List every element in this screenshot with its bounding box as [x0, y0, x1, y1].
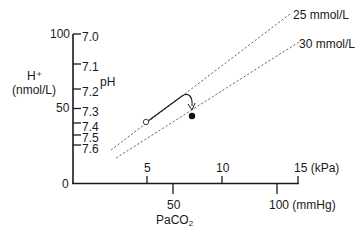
- ph-axis-label: pH: [100, 76, 115, 88]
- filled-circle-point: [189, 113, 195, 119]
- isopleth-25-label: 25 mmol/L: [293, 9, 349, 21]
- y-tick-50: 50: [56, 102, 69, 114]
- isopleth-30: [116, 42, 299, 158]
- open-circle-point: [143, 119, 148, 124]
- mmhg-tick-50: 50: [167, 199, 180, 211]
- isopleth-25: [111, 14, 290, 150]
- y-tick-0: 0: [62, 178, 69, 190]
- mmhg-tick-100: 100 (mmHg): [269, 199, 336, 211]
- x-axis-label-sub: 2: [189, 219, 193, 228]
- x-axis-label: PaCO2: [156, 214, 193, 230]
- kpa-tick-5: 5: [144, 162, 151, 174]
- ph-tick-7-1: 7.1: [82, 61, 99, 73]
- kpa-tick-15: 15 (kPa): [294, 162, 339, 174]
- ph-ticks: [73, 34, 81, 145]
- x-axis-label-text: PaCO: [156, 213, 189, 227]
- ph-tick-7-3: 7.3: [82, 106, 99, 118]
- isopleth-30-label: 30 mmol/L: [299, 38, 355, 50]
- mmhg-ticks: [173, 183, 277, 194]
- h-axis-label-line1: H⁺: [27, 70, 42, 82]
- y-tick-100: 100: [50, 28, 70, 40]
- arrowhead-icon: [188, 103, 195, 110]
- ph-tick-7-2: 7.2: [82, 86, 99, 98]
- ph-tick-7-6: 7.6: [82, 143, 99, 155]
- h-axis-label-line2: (nmol/L): [12, 84, 56, 96]
- ph-tick-7-0: 7.0: [82, 31, 99, 43]
- kpa-tick-10: 10: [216, 162, 229, 174]
